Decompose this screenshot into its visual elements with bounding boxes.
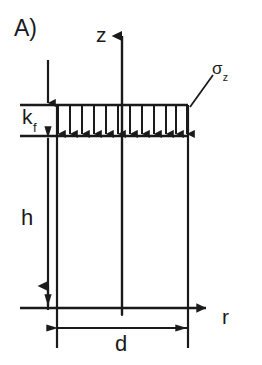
r-axis-label: r bbox=[222, 306, 229, 327]
kf-subscript: f bbox=[33, 120, 37, 135]
body-outline-group bbox=[20, 105, 188, 348]
kf-base: k bbox=[22, 105, 33, 128]
diameter-dimension-label: d bbox=[115, 333, 127, 355]
stress-label: σz bbox=[212, 60, 228, 80]
sigma-subscript: z bbox=[223, 71, 228, 83]
layer-stiffness-label: kf bbox=[22, 106, 36, 131]
sigma-leader-group bbox=[190, 75, 213, 107]
sigma-base: σ bbox=[212, 59, 223, 78]
z-axis-label: z bbox=[96, 24, 107, 45]
panel-label: A) bbox=[14, 17, 37, 40]
figure-panel-a: A) z r h d kf σz bbox=[0, 0, 262, 365]
sigma-leader-line bbox=[190, 75, 213, 107]
height-dimension-label: h bbox=[21, 207, 33, 229]
